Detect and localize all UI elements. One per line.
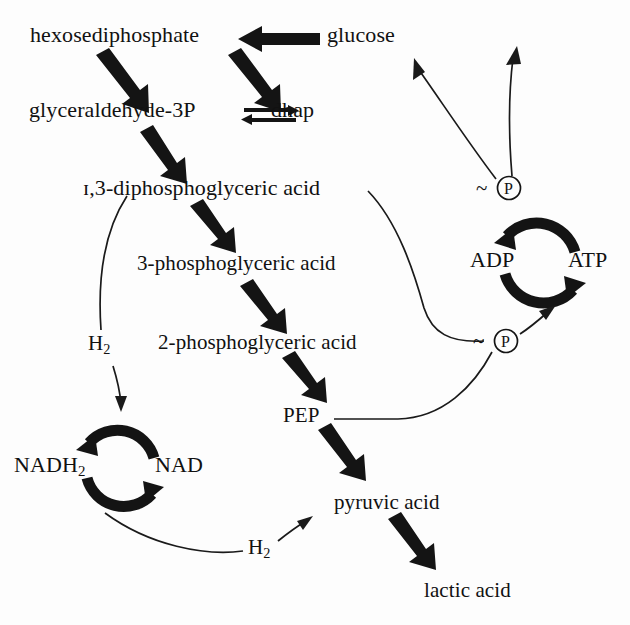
connector-phosphate-lower-to-atp	[520, 305, 556, 334]
node-hexosediphosphate: hexosediphosphate	[30, 24, 199, 46]
node-pep: PEP	[283, 405, 320, 426]
nad-nadh2-cycle-ring	[76, 430, 164, 506]
node-h2-upper: H2	[88, 333, 111, 356]
node-glyceraldehyde-3p: glyceraldehyde-3P	[29, 99, 196, 121]
arrow-3phosphoglyceric-to-2phosphoglyceric	[240, 279, 287, 334]
node-nadh2: NADH2	[14, 454, 86, 479]
connector-phosphate-upper-to-top	[506, 46, 521, 176]
node-dhap: dhap	[271, 99, 314, 121]
node-pyruvic-acid: pyruvic acid	[334, 492, 440, 513]
phosphate-lower-label: P	[501, 334, 510, 350]
connector-phosphate-upper-to-glucose	[413, 58, 496, 179]
connector-diphosphoglyceric-to-phosphate-lower	[368, 191, 484, 341]
connector-nadcycle-to-h2lower	[105, 513, 243, 552]
connector-h2lower-to-pyruvic	[278, 516, 313, 541]
phosphate-upper-label: P	[504, 181, 513, 197]
node-diphosphoglyceric-acid: ɪ,3-diphosphoglyceric acid	[83, 177, 320, 199]
node-adp: ADP	[470, 249, 514, 271]
node-2-phosphoglyceric-acid: 2-phosphoglyceric acid	[158, 332, 357, 353]
connector-diphosphoglyceric-to-h2upper	[100, 196, 127, 330]
connector-h2upper-to-nadcycle	[113, 366, 127, 412]
arrow-pyruvic-to-lactic	[388, 512, 436, 570]
node-nadh2-text: NADH	[14, 452, 78, 477]
tilde-upper: ~	[476, 178, 487, 199]
node-nad: NAD	[155, 454, 203, 476]
arrow-pep-to-pyruvic	[318, 423, 366, 481]
arrow-2phosphoglyceric-to-pep	[282, 351, 327, 403]
node-h2-lower-text: H	[248, 535, 263, 559]
node-3-phosphoglyceric-acid: 3-phosphoglyceric acid	[137, 253, 336, 274]
node-glucose: glucose	[327, 24, 395, 46]
glycolysis-pathway-diagram: hexosediphosphate glucose glyceraldehyde…	[0, 0, 630, 625]
pathway-connections-svg	[0, 0, 630, 625]
node-h2-lower-subscript: 2	[263, 545, 270, 561]
node-lactic-acid: lactic acid	[424, 580, 511, 601]
node-h2-upper-subscript: 2	[103, 341, 110, 357]
arrow-diphosphoglyceric-to-3phosphoglyceric	[190, 199, 236, 253]
node-nadh2-subscript: 2	[78, 463, 86, 479]
tilde-lower: ~	[473, 331, 484, 352]
connector-pep-to-phosphate-lower	[334, 352, 492, 419]
node-h2-upper-text: H	[88, 331, 103, 355]
node-h2-lower: H2	[248, 537, 271, 560]
node-atp: ATP	[568, 249, 607, 271]
arrow-glucose-to-hexosediphosphate	[238, 26, 320, 52]
